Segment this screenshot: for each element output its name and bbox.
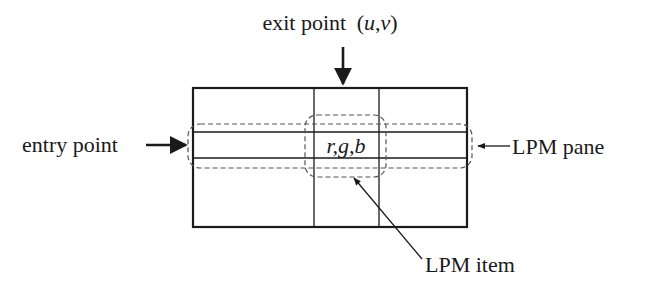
entry-point-label: entry point xyxy=(22,132,118,157)
lpm-diagram: r,g,b exit point (u,v) entry point LPM p… xyxy=(0,0,645,285)
lpm-pane-label: LPM pane xyxy=(512,134,604,159)
exit-point-label: exit point (u,v) xyxy=(262,10,397,35)
rgb-label: r,g,b xyxy=(326,133,365,158)
lpm-item-arrow xyxy=(354,178,422,259)
lpm-item-label: LPM item xyxy=(425,252,515,277)
